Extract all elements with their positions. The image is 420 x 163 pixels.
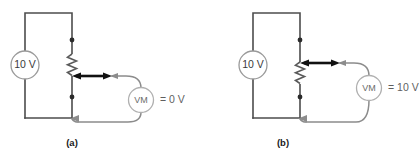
circuit-a-voltmeter-label: VM (134, 95, 148, 105)
circuit-a-meter-upper-lead-arrow (110, 73, 118, 79)
circuit-a: 10 V V (11, 13, 185, 148)
circuit-b-voltage-source-label: 10 V (242, 58, 264, 70)
circuit-b-caption: (b) (277, 137, 289, 148)
circuit-a-meter-lower-lead (78, 112, 141, 122)
circuit-b-meter-reading: = 10 V (388, 81, 419, 93)
circuit-b-top-node-dot (298, 38, 303, 43)
circuit-a-top-node-dot (70, 38, 75, 43)
circuit-b-meter-lower-lead (306, 100, 369, 122)
circuit-b: 10 V VM = 10 (239, 13, 419, 148)
circuit-diagram-canvas: 10 V V (0, 0, 420, 163)
circuit-a-meter-reading: = 0 V (160, 93, 185, 105)
circuit-a-caption: (a) (66, 137, 78, 148)
circuit-b-meter-upper-lead-arrow (338, 60, 346, 66)
circuit-a-bottom-node-dot (70, 95, 75, 100)
circuit-a-voltage-source-label: 10 V (14, 58, 36, 70)
circuit-b-bottom-node-dot (298, 95, 303, 100)
potentiometer-figure: 10 V V (0, 0, 420, 163)
circuit-b-voltmeter-label: VM (362, 83, 376, 93)
